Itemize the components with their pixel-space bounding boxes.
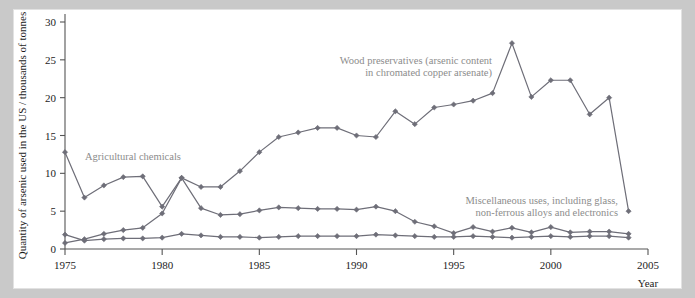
y-axis-title: Quantity of arsenic used in the US / tho… bbox=[16, 12, 28, 259]
x-tick-label-2005: 2005 bbox=[637, 259, 660, 271]
annotation-agricultural-chemicals-line-1: Agricultural chemicals bbox=[85, 151, 181, 162]
marker-0-1990 bbox=[354, 133, 359, 138]
y-tick-label-20: 20 bbox=[45, 92, 57, 104]
marker-2-1978 bbox=[121, 236, 126, 241]
marker-0-1998 bbox=[509, 41, 514, 46]
marker-1-1984 bbox=[237, 212, 242, 217]
y-tick-label-30: 30 bbox=[45, 16, 57, 28]
arsenic-usage-line-chart: 0510152025301975198019851990199520002005… bbox=[0, 0, 695, 298]
y-tick-label-15: 15 bbox=[45, 130, 57, 142]
marker-2-1979 bbox=[140, 236, 145, 241]
marker-0-2001 bbox=[568, 78, 573, 83]
marker-1-1985 bbox=[257, 208, 262, 213]
marker-1-1986 bbox=[276, 205, 281, 210]
marker-2-2000 bbox=[548, 234, 553, 239]
annotation-miscellaneous-uses-line-2: non-ferrous alloys and electronics bbox=[475, 207, 618, 218]
annotation-wood-preservatives-line-1: Wood preservatives (arsenic content bbox=[340, 55, 492, 67]
marker-2-1980 bbox=[160, 235, 165, 240]
marker-2-1997 bbox=[490, 234, 495, 239]
marker-1-1998 bbox=[509, 225, 514, 230]
x-axis-title: Year bbox=[638, 277, 659, 289]
x-tick-label-1990: 1990 bbox=[346, 259, 369, 271]
marker-2-1996 bbox=[471, 234, 476, 239]
y-tick-label-25: 25 bbox=[45, 54, 57, 66]
marker-0-1977 bbox=[101, 231, 106, 236]
marker-2-1990 bbox=[354, 234, 359, 239]
marker-0-1988 bbox=[315, 125, 320, 130]
marker-2-1975 bbox=[62, 232, 67, 237]
marker-2-1992 bbox=[393, 233, 398, 238]
marker-2-2004 bbox=[626, 235, 631, 240]
y-tick-label-0: 0 bbox=[51, 243, 57, 255]
marker-1-1987 bbox=[296, 206, 301, 211]
marker-1-1994 bbox=[432, 224, 437, 229]
marker-1-1975 bbox=[62, 150, 67, 155]
marker-2-1983 bbox=[218, 234, 223, 239]
marker-2-1977 bbox=[101, 237, 106, 242]
marker-2-1981 bbox=[179, 231, 184, 236]
marker-1-1989 bbox=[334, 206, 339, 211]
marker-2-1986 bbox=[276, 234, 281, 239]
series-line-2 bbox=[65, 234, 629, 241]
marker-0-1989 bbox=[334, 125, 339, 130]
figure-container: 0510152025301975198019851990199520002005… bbox=[0, 0, 695, 298]
marker-1-1983 bbox=[218, 212, 223, 217]
annotation-wood-preservatives-line-2: in chromated copper arsenate) bbox=[365, 67, 492, 79]
marker-2-1984 bbox=[237, 234, 242, 239]
marker-2-1998 bbox=[509, 235, 514, 240]
marker-0-1978 bbox=[121, 227, 126, 232]
marker-2-1982 bbox=[198, 233, 203, 238]
marker-2-2002 bbox=[587, 234, 592, 239]
marker-1-1997 bbox=[490, 229, 495, 234]
marker-1-1988 bbox=[315, 206, 320, 211]
marker-1-1991 bbox=[373, 204, 378, 209]
annotation-agricultural-chemicals: Agricultural chemicals bbox=[85, 151, 181, 162]
marker-2-1995 bbox=[451, 234, 456, 239]
marker-1-1993 bbox=[412, 219, 417, 224]
marker-2-1985 bbox=[257, 235, 262, 240]
marker-0-1995 bbox=[451, 102, 456, 107]
marker-0-1975 bbox=[62, 240, 67, 245]
marker-0-1996 bbox=[471, 98, 476, 103]
marker-1-1996 bbox=[471, 224, 476, 229]
annotation-layer: Wood preservatives (arsenic contentin ch… bbox=[85, 55, 618, 218]
marker-2-1989 bbox=[334, 234, 339, 239]
marker-0-1997 bbox=[490, 91, 495, 96]
x-tick-label-1995: 1995 bbox=[443, 259, 466, 271]
marker-2-1991 bbox=[373, 232, 378, 237]
x-tick-label-2000: 2000 bbox=[540, 259, 563, 271]
annotation-miscellaneous-uses-line-1: Miscellaneous uses, including glass, bbox=[465, 195, 618, 206]
marker-2-1988 bbox=[315, 234, 320, 239]
marker-2-2003 bbox=[607, 234, 612, 239]
y-tick-label-10: 10 bbox=[45, 167, 57, 179]
marker-2-1999 bbox=[529, 234, 534, 239]
marker-2-1987 bbox=[296, 234, 301, 239]
marker-1-2000 bbox=[548, 224, 553, 229]
marker-1-1992 bbox=[393, 209, 398, 214]
marker-1-1978 bbox=[121, 175, 126, 180]
x-tick-label-1980: 1980 bbox=[151, 259, 174, 271]
marker-2-1994 bbox=[432, 234, 437, 239]
x-tick-label-1975: 1975 bbox=[54, 259, 77, 271]
series-line-1 bbox=[65, 152, 629, 234]
marker-1-1990 bbox=[354, 207, 359, 212]
marker-0-1982 bbox=[198, 184, 203, 189]
marker-2-2001 bbox=[568, 234, 573, 239]
marker-2-1993 bbox=[412, 234, 417, 239]
marker-0-2004 bbox=[626, 209, 631, 214]
series-2 bbox=[62, 231, 631, 243]
annotation-miscellaneous-uses: Miscellaneous uses, including glass,non-… bbox=[465, 195, 618, 218]
x-tick-label-1985: 1985 bbox=[248, 259, 271, 271]
marker-0-1987 bbox=[296, 130, 301, 135]
y-tick-label-5: 5 bbox=[51, 205, 57, 217]
annotation-wood-preservatives: Wood preservatives (arsenic contentin ch… bbox=[340, 55, 493, 79]
